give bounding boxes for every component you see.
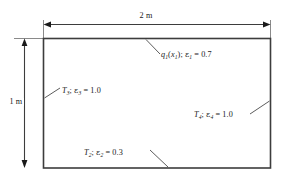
surface-3-label: T3; ε3 = 1.0 [62,86,101,95]
diagram-canvas [0,0,281,181]
surface-3-temperature-index: 3 [67,90,70,96]
surface-1-arg-index: 1 [175,54,178,60]
surface-4-temperature-symbol: T [194,110,199,119]
surface-1-equals: = [192,50,201,59]
surface-2-emissivity-index: 2 [100,152,103,158]
surface-2-temperature-symbol: T [84,148,89,157]
surface-2-temperature-index: 2 [89,152,92,158]
surface-2-emissivity-value: 0.3 [112,148,123,157]
surface-1-emissivity-value: 0.7 [201,50,212,59]
surface-3-emissivity-index: 3 [78,90,81,96]
width-arrowhead-right [263,22,271,28]
surface-3-temperature-symbol: T [62,86,67,95]
surface-4-emissivity-value: 1.0 [222,110,233,119]
surface-2-label: T2; ε2 = 0.3 [84,148,123,157]
surface-4-emissivity-index: 4 [210,114,213,120]
surface-1-emissivity-index: 1 [189,54,192,60]
width-dimension-label: 2 m [138,12,154,20]
surface-4-label: T4; ε4 = 1.0 [194,110,233,119]
enclosure-diagram: 2 m 1 m q1(x1); ε1 = 0.7 T3; ε3 = 1.0 T4… [0,0,281,181]
surface-1-label: q1(x1); ε1 = 0.7 [161,50,212,59]
height-arrowhead-bottom [22,160,28,168]
surface-4-temperature-index: 4 [199,114,202,120]
height-dimension-label: 1 m [8,98,24,106]
surface-3-equals: = [81,86,90,95]
enclosure-rectangle [44,39,271,169]
surface-1-flux-index: 1 [165,54,168,60]
surface-2-equals: = [103,148,112,157]
surface-4-equals: = [213,110,222,119]
height-arrowhead-top [22,39,28,47]
width-arrowhead-left [44,22,52,28]
surface-3-emissivity-value: 1.0 [90,86,101,95]
